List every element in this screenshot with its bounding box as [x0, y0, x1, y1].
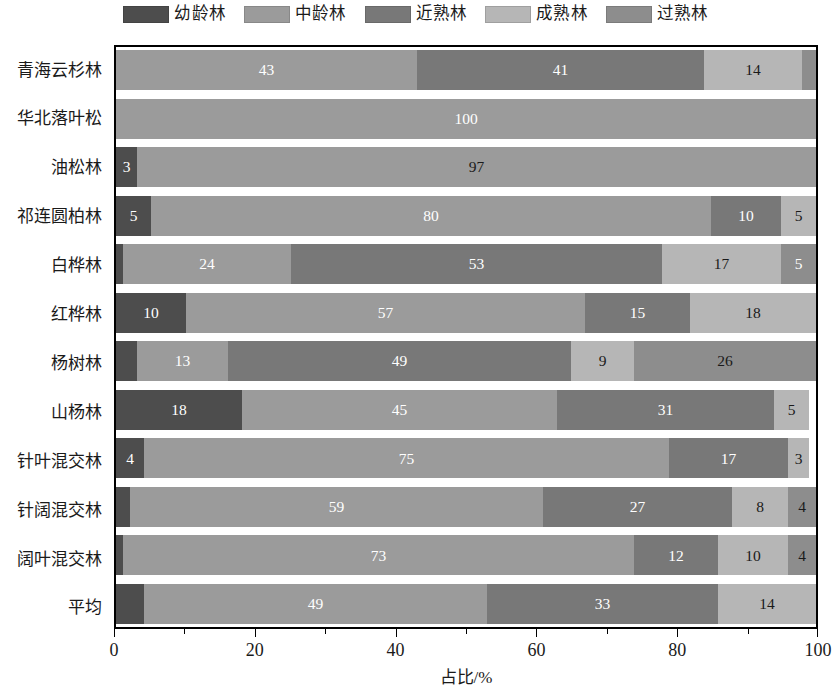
bar-segment-value: 3 [123, 159, 131, 175]
bar-segment[interactable]: 3 [116, 147, 137, 187]
legend-item-middle[interactable]: 中龄林 [244, 6, 347, 23]
category-label-3: 祁连圆柏林 [0, 195, 108, 235]
bar-segment[interactable]: 15 [585, 293, 690, 333]
bar-segment-value: 43 [259, 62, 275, 78]
bar-segment[interactable]: 14 [704, 50, 802, 90]
bar-segment[interactable]: 18 [116, 390, 242, 430]
category-label-9: 针阔混交林 [0, 488, 108, 528]
bar-segment[interactable]: 49 [228, 341, 571, 381]
bar-row: 592784 [116, 487, 816, 527]
bar-segment[interactable]: 13 [137, 341, 228, 381]
bar-segment-value: 3 [795, 451, 803, 467]
legend-item-mature[interactable]: 成熟林 [485, 6, 588, 23]
bar-segment[interactable]: 26 [634, 341, 816, 381]
category-label-11: 平均 [0, 586, 108, 626]
legend-label-middle: 中龄林 [295, 6, 347, 23]
bar-segment[interactable] [116, 341, 137, 381]
bar-segment[interactable] [116, 535, 123, 575]
bar-segment[interactable]: 41 [417, 50, 704, 90]
category-label-8: 针叶混交林 [0, 439, 108, 479]
bar-segment-value: 59 [329, 499, 345, 515]
bar-segment[interactable]: 27 [543, 487, 732, 527]
bar-segment[interactable]: 10 [711, 196, 781, 236]
bar-segment[interactable] [802, 50, 816, 90]
bar-segment[interactable]: 49 [144, 584, 487, 624]
bar-segment[interactable]: 12 [634, 535, 718, 575]
x-tick-mark-0 [114, 629, 115, 637]
x-tick-mark-80 [677, 629, 678, 637]
bar-segment-value: 4 [798, 548, 806, 564]
legend-label-near_mature: 近熟林 [416, 6, 468, 23]
bar-segment[interactable]: 5 [774, 390, 809, 430]
bar-segment-value: 17 [721, 451, 737, 467]
category-label-7: 山杨林 [0, 390, 108, 430]
bar-segment[interactable]: 3 [788, 438, 809, 478]
bar-segment-value: 5 [795, 208, 803, 224]
bar-row: 100 [116, 99, 816, 139]
bar-segment-value: 49 [392, 353, 408, 369]
category-label-4: 白桦林 [0, 244, 108, 284]
bar-segment-value: 14 [759, 596, 775, 612]
bar-segment[interactable]: 31 [557, 390, 774, 430]
x-tick-mark-40 [396, 629, 397, 637]
bar-segment[interactable]: 5 [116, 196, 151, 236]
bar-segment[interactable]: 10 [116, 293, 186, 333]
x-tick-label-0: 0 [110, 640, 119, 661]
bar-segment[interactable]: 80 [151, 196, 711, 236]
bar-segment-value: 10 [738, 208, 754, 224]
bar-row: 434114 [116, 50, 816, 90]
legend-swatch-young [123, 6, 169, 23]
legend-item-over_mature[interactable]: 过熟林 [606, 6, 709, 23]
bar-segment-value: 80 [423, 208, 439, 224]
x-tick-label-80: 80 [668, 640, 686, 661]
x-minor-tick-90 [748, 629, 749, 634]
category-label-5: 红桦林 [0, 293, 108, 333]
plot-area: 4341141003975801052453175105715181349926… [114, 45, 818, 629]
x-minor-tick-10 [184, 629, 185, 634]
bar-segment-value: 45 [392, 402, 408, 418]
bar-segment[interactable]: 57 [186, 293, 585, 333]
bar-segment-value: 100 [454, 111, 477, 127]
x-minor-tick-50 [466, 629, 467, 634]
bar-segment[interactable]: 100 [116, 99, 816, 139]
bar-segment[interactable]: 17 [669, 438, 788, 478]
bar-segment[interactable]: 4 [788, 535, 816, 575]
x-tick-label-40: 40 [387, 640, 405, 661]
bar-segment-value: 13 [175, 353, 191, 369]
legend-item-young[interactable]: 幼龄林 [123, 6, 226, 23]
bar-segment[interactable]: 10 [718, 535, 788, 575]
legend-item-near_mature[interactable]: 近熟林 [365, 6, 468, 23]
bar-segment[interactable]: 5 [781, 196, 816, 236]
stacked-bars-container: 4341141003975801052453175105715181349926… [116, 47, 816, 627]
bar-segment[interactable]: 97 [137, 147, 816, 187]
bar-segment-value: 73 [371, 548, 387, 564]
category-label-2: 油松林 [0, 146, 108, 186]
x-axis-title: 占比/% [114, 663, 818, 688]
bar-segment[interactable]: 9 [571, 341, 634, 381]
bar-segment-value: 9 [599, 353, 607, 369]
bar-segment[interactable] [116, 244, 123, 284]
bar-segment-value: 4 [798, 499, 806, 515]
x-tick-label-60: 60 [527, 640, 545, 661]
legend-swatch-mature [485, 6, 531, 23]
bar-segment[interactable]: 75 [144, 438, 669, 478]
bar-segment[interactable]: 17 [662, 244, 781, 284]
bar-segment[interactable]: 53 [291, 244, 662, 284]
bar-segment[interactable]: 14 [718, 584, 816, 624]
x-tick-mark-20 [255, 629, 256, 637]
bar-segment[interactable]: 24 [123, 244, 291, 284]
bar-segment[interactable]: 33 [487, 584, 718, 624]
bar-segment[interactable]: 4 [788, 487, 816, 527]
bar-segment[interactable]: 73 [123, 535, 634, 575]
bar-row: 7312104 [116, 535, 816, 575]
bar-segment[interactable]: 43 [116, 50, 417, 90]
bar-segment-value: 14 [745, 62, 761, 78]
bar-segment[interactable]: 5 [781, 244, 816, 284]
bar-segment[interactable]: 59 [130, 487, 543, 527]
bar-segment[interactable]: 18 [690, 293, 816, 333]
bar-segment[interactable] [116, 584, 144, 624]
bar-segment[interactable]: 4 [116, 438, 144, 478]
bar-segment[interactable]: 45 [242, 390, 557, 430]
bar-segment[interactable] [116, 487, 130, 527]
bar-segment[interactable]: 8 [732, 487, 788, 527]
